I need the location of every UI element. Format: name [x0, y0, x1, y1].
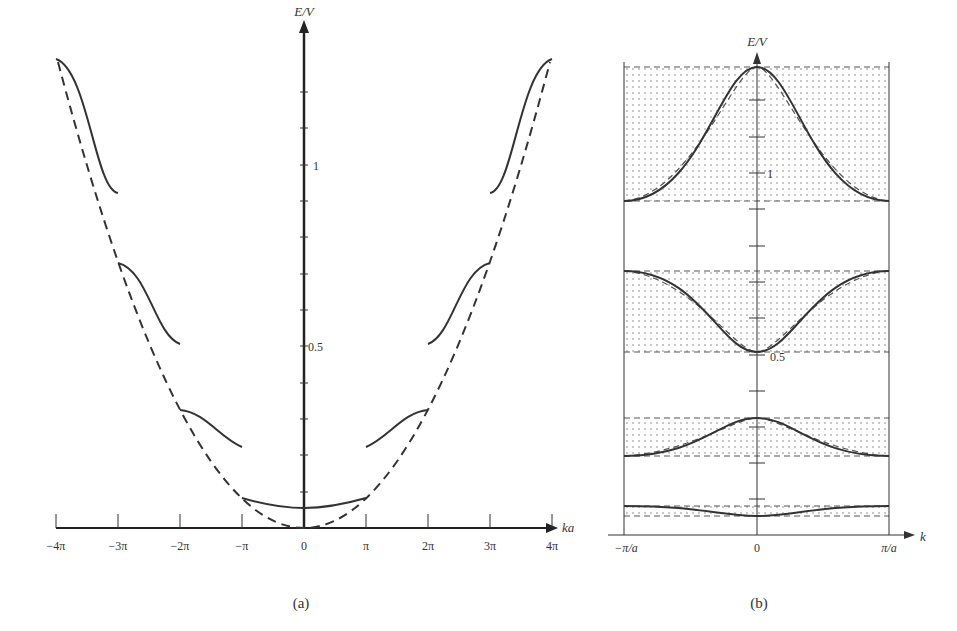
x-axis-label-b: k	[920, 529, 926, 544]
x-tick-label: π/a	[881, 541, 896, 555]
y-axis-label-a: E/V	[293, 4, 316, 19]
y-tick-label-05-a: 0.5	[308, 340, 323, 354]
x-tick-label: 0	[301, 539, 307, 553]
x-tick-label: 3π	[484, 539, 496, 553]
band-3-right	[428, 263, 490, 344]
y-axis-label-b: E/V	[746, 34, 769, 49]
y-tick-label-05-b: 0.5	[770, 350, 785, 364]
y-axis-arrow-icon	[299, 20, 309, 33]
caption-b: (b)	[750, 595, 768, 612]
x-tick-labels-b: −π/a 0 π/a	[614, 541, 896, 555]
x-tick-label: −2π	[171, 539, 190, 553]
x-tick-label: 2π	[422, 539, 434, 553]
x-tick-label: −4π	[47, 539, 66, 553]
x-tick-label: π	[363, 539, 369, 553]
band-3-left	[118, 263, 180, 344]
x-tick-label: 0	[754, 541, 760, 555]
band-4-left	[56, 59, 118, 193]
band-structure-figure: E/V ka 1 0.5 −4π −3π −2π −π 0 π 2π 3π 4π	[0, 0, 957, 631]
y-axis-arrow-icon	[753, 52, 761, 64]
x-axis-label-a: ka	[562, 520, 575, 535]
caption-a: (a)	[293, 595, 310, 612]
y-tick-label-1-b: 1	[767, 167, 773, 181]
panel-b: E/V k 1 0.5 −π/a 0 π/a (b)	[608, 34, 926, 612]
x-tick-label: −3π	[109, 539, 128, 553]
y-tick-label-1-a: 1	[313, 159, 319, 173]
panel-a: E/V ka 1 0.5 −4π −3π −2π −π 0 π 2π 3π 4π	[47, 4, 575, 612]
x-tick-label: −π	[236, 539, 249, 553]
x-tick-label: 4π	[546, 539, 558, 553]
band-4-right	[490, 59, 552, 193]
x-tick-label: −π/a	[614, 541, 637, 555]
x-axis-arrow-icon	[904, 531, 915, 539]
x-tick-labels-a: −4π −3π −2π −π 0 π 2π 3π 4π	[47, 539, 558, 553]
band-2-left	[180, 410, 242, 447]
